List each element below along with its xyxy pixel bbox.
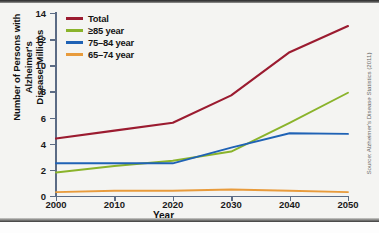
legend-swatch-icon-1 (66, 29, 83, 32)
y-axis-title: Number of Persons with Alzheimer's Disea… (11, 0, 46, 147)
x-tick-label-2010: 2010 (104, 199, 125, 210)
y-tick-10 (50, 65, 55, 66)
figure-top-border (0, 0, 379, 3)
legend-label-2: 75–84 year (88, 37, 134, 48)
legend-swatch-icon-0 (66, 17, 83, 20)
legend-label-0: Total (88, 13, 109, 24)
legend-label-1: ≥85 year (88, 25, 124, 36)
legend-item-2[interactable]: 75–84 year (66, 36, 176, 48)
y-tick-4 (50, 144, 55, 145)
series-line-2 (56, 133, 348, 163)
y-axis-title-line1: Number of Persons with Alzheimer's (11, 0, 34, 147)
x-tick-label-2050: 2050 (337, 199, 358, 210)
y-tick-label-0: 0 (0, 191, 46, 202)
legend-swatch-icon-2 (66, 41, 83, 44)
figure-container: Number of Persons with Alzheimer's Disea… (0, 0, 379, 233)
source-note: Source: Alzheimer's Disease Statistics (… (365, 25, 372, 175)
y-tick-label-6: 6 (0, 112, 46, 123)
y-tick-label-12: 12 (0, 34, 46, 45)
y-tick-label-8: 8 (0, 86, 46, 97)
y-tick-label-2: 2 (0, 164, 46, 175)
legend-item-3[interactable]: 65–74 year (66, 49, 176, 61)
x-tick-label-2020: 2020 (162, 199, 183, 210)
series-line-3 (56, 189, 348, 192)
y-axis-title-line2: Disease, Millions (34, 0, 46, 147)
y-tick-8 (50, 91, 55, 92)
y-tick-2 (50, 170, 55, 171)
y-tick-label-4: 4 (0, 138, 46, 149)
y-tick-label-14: 14 (0, 8, 46, 19)
y-tick-12 (50, 39, 55, 40)
legend-item-0[interactable]: Total (66, 12, 176, 24)
y-tick-14 (50, 13, 55, 14)
y-tick-6 (50, 118, 55, 119)
y-tick-0 (50, 196, 55, 197)
y-tick-label-10: 10 (0, 60, 46, 71)
legend-swatch-icon-3 (66, 53, 83, 56)
legend-label-3: 65–74 year (88, 49, 134, 60)
chart-legend: Total≥85 year75–84 year65–74 year (66, 12, 176, 61)
figure-outer-margin (0, 222, 379, 233)
legend-item-1[interactable]: ≥85 year (66, 24, 176, 36)
x-tick-label-2000: 2000 (45, 199, 66, 210)
x-tick-label-2040: 2040 (279, 199, 300, 210)
x-tick-label-2030: 2030 (221, 199, 242, 210)
